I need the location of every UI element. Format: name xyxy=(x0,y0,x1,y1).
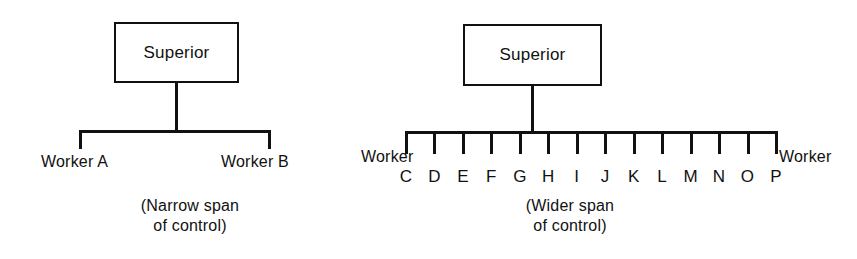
sibling-bar-narrow xyxy=(79,130,271,133)
worker-a-label: Worker A xyxy=(41,154,108,170)
worker-tick-k xyxy=(633,131,636,154)
worker-letter-h: H xyxy=(534,168,562,185)
worker-letter-f: F xyxy=(477,168,505,185)
span-of-control-figure: Superior Worker A Worker B (Narrow span … xyxy=(0,0,857,259)
drop-line-worker-a xyxy=(79,130,82,149)
worker-letter-n: N xyxy=(705,168,733,185)
narrow-span-caption-line1: (Narrow span xyxy=(90,196,290,216)
worker-letter-i: I xyxy=(563,168,591,185)
worker-letter-g: G xyxy=(506,168,534,185)
worker-tick-n xyxy=(718,131,721,154)
wider-span-caption-line1: (Wider span xyxy=(470,196,670,216)
worker-letter-p: P xyxy=(762,168,790,185)
superior-stem-narrow xyxy=(175,83,178,133)
worker-tick-j xyxy=(604,131,607,154)
worker-tick-e xyxy=(462,131,465,154)
worker-tick-i xyxy=(576,131,579,154)
worker-tick-f xyxy=(490,131,493,154)
worker-letter-l: L xyxy=(648,168,676,185)
worker-tick-p xyxy=(775,131,778,154)
worker-letter-k: K xyxy=(620,168,648,185)
narrow-span-caption: (Narrow span of control) xyxy=(90,196,290,236)
worker-tick-h xyxy=(547,131,550,154)
worker-tick-l xyxy=(661,131,664,154)
worker-letter-j: J xyxy=(591,168,619,185)
superior-label-wide: Superior xyxy=(500,45,566,65)
worker-edge-label-left: Worker xyxy=(361,149,413,165)
superior-label-narrow: Superior xyxy=(144,43,210,63)
wider-span-caption-line2: of control) xyxy=(470,216,670,236)
worker-tick-m xyxy=(690,131,693,154)
worker-b-label: Worker B xyxy=(221,154,289,170)
worker-tick-o xyxy=(747,131,750,154)
narrow-span-caption-line2: of control) xyxy=(90,216,290,236)
worker-tick-d xyxy=(433,131,436,154)
worker-letter-o: O xyxy=(734,168,762,185)
superior-box-narrow: Superior xyxy=(114,22,239,83)
drop-line-worker-b xyxy=(268,130,271,149)
worker-letter-e: E xyxy=(449,168,477,185)
worker-letter-d: D xyxy=(420,168,448,185)
worker-letter-c: C xyxy=(392,168,420,185)
superior-stem-wide xyxy=(531,86,534,133)
wider-span-caption: (Wider span of control) xyxy=(470,196,670,236)
worker-letter-m: M xyxy=(677,168,705,185)
worker-tick-g xyxy=(519,131,522,154)
worker-edge-label-right: Worker xyxy=(779,149,831,165)
superior-box-wide: Superior xyxy=(463,24,602,86)
